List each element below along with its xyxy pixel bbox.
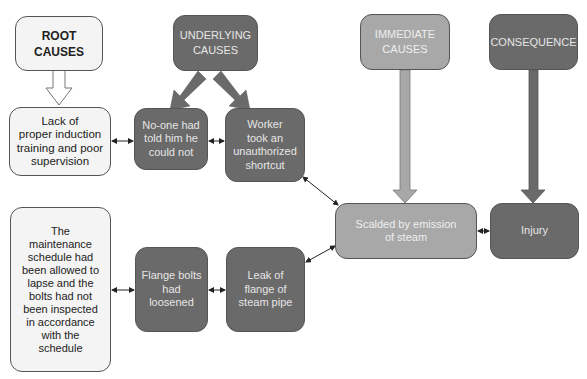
node-lack-training: Lack of proper induction training and po… [9,107,111,176]
node-no-one-told: No-one had told him he could not [134,108,208,170]
immediate-down-arrow [393,70,417,203]
root-down-arrow [46,70,72,105]
underlying-causes-header: UNDERLYING CAUSES [173,15,258,71]
node-leak: Leak of flange of steam pipe [226,247,305,332]
node-injury: Injury [490,203,579,259]
underlying-left-arrow [170,71,206,110]
node-maintenance: The maintenance schedule had been allowe… [10,207,111,372]
node-flange-bolts: Flange bolts had loosened [135,247,208,332]
immediate-causes-header: IMMEDIATE CAUSES [360,14,450,70]
consequence-down-arrow [521,70,545,203]
root-causes-header: ROOT CAUSES [15,16,103,71]
node-scalded: Scalded by emission of steam [335,203,477,259]
consequence-header: CONSEQUENCE [489,14,578,70]
underlying-right-arrow [213,71,250,110]
node-shortcut: Worker took an unauthorized shortcut [225,108,305,182]
